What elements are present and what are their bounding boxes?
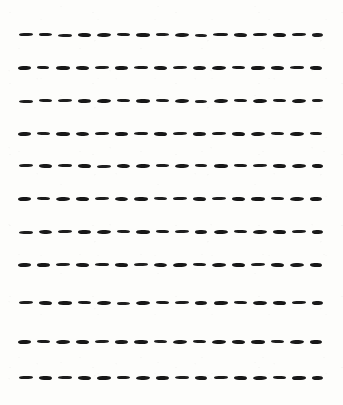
dash-mark (214, 376, 228, 380)
dash-mark (310, 197, 322, 201)
dash-mark (253, 230, 267, 234)
dash-mark (156, 99, 169, 103)
dash-mark (95, 340, 109, 344)
dash-mark (78, 99, 91, 103)
dash-mark (234, 230, 247, 234)
dash-mark (175, 301, 189, 305)
dash-mark (193, 263, 206, 267)
dash-mark (214, 164, 228, 168)
dash-mark (193, 132, 206, 136)
dash-mark (39, 33, 52, 37)
dash-mark (115, 197, 128, 201)
dash-mark (95, 263, 109, 267)
dash-mark (156, 301, 169, 305)
dash-mark (251, 66, 265, 70)
dash-row (0, 335, 343, 349)
dash-mark (136, 376, 150, 380)
dash-mark (117, 33, 130, 37)
dash-mark (95, 197, 109, 201)
dash-mark (78, 164, 91, 168)
dash-mark (195, 164, 207, 168)
dash-mark (19, 230, 33, 233)
dash-mark (234, 33, 247, 37)
dash-mark (173, 132, 187, 136)
dash-mark (195, 301, 207, 305)
dash-mark (310, 263, 322, 267)
dash-mark (58, 301, 72, 305)
dash-mark (156, 164, 169, 167)
dash-mark (58, 164, 72, 168)
dash-mark (232, 340, 245, 344)
dash-mark (134, 66, 148, 70)
dash-mark (37, 66, 49, 70)
dash-mark (97, 230, 111, 234)
dash-mark (136, 99, 150, 103)
dash-mark (312, 301, 323, 305)
dash-mark (156, 376, 169, 380)
dash-mark (58, 230, 72, 234)
dash-row (0, 296, 343, 310)
dash-mark (58, 33, 72, 36)
dash-mark (18, 340, 31, 344)
dash-mark (273, 376, 286, 380)
dash-mark (292, 376, 306, 380)
dash-row (0, 258, 343, 272)
dash-mark (76, 132, 89, 136)
dash-mark (19, 376, 33, 380)
dash-mark (76, 197, 89, 202)
dash-mark (212, 132, 226, 136)
dash-mark (273, 33, 286, 37)
dash-mark (117, 99, 130, 103)
dash-mark (271, 197, 284, 201)
dash-mark (56, 340, 70, 344)
dash-mark (19, 164, 33, 167)
dash-mark (76, 340, 89, 345)
dash-mark (175, 376, 189, 379)
dash-mark (19, 99, 33, 102)
dash-mark (212, 197, 226, 200)
dash-mark (115, 340, 128, 344)
dash-mark (134, 340, 148, 344)
dash-mark (97, 33, 111, 37)
dash-mark (251, 197, 265, 201)
dash-mark (56, 66, 70, 70)
dash-mark (290, 66, 304, 70)
dash-mark (39, 99, 52, 103)
dash-mark (58, 376, 72, 379)
dash-mark (271, 263, 284, 267)
dash-mark (273, 301, 286, 305)
dash-mark (253, 301, 267, 305)
dash-mark (154, 66, 167, 70)
dash-mark (173, 66, 187, 70)
dash-mark (312, 376, 323, 380)
dash-mark (175, 230, 189, 233)
dash-mark (37, 132, 50, 136)
dash-mark (154, 340, 167, 344)
dash-mark (234, 164, 247, 168)
dash-mark (154, 132, 167, 136)
dash-mark (234, 301, 247, 305)
dash-row (0, 127, 343, 141)
dash-mark (271, 340, 284, 344)
dash-mark (251, 340, 265, 344)
dash-mark (214, 230, 228, 234)
dash-mark (115, 132, 128, 136)
dash-mark (95, 132, 109, 136)
dash-mark (39, 301, 52, 305)
dash-mark (97, 164, 111, 167)
dash-mark (292, 230, 306, 234)
dash-mark (136, 33, 150, 37)
dash-mark (39, 230, 52, 234)
dash-mark (253, 376, 267, 380)
dash-mark (232, 66, 245, 70)
dash-mark (37, 263, 50, 267)
dash-mark (76, 66, 89, 70)
dash-row (0, 225, 343, 239)
dash-mark (58, 99, 72, 103)
dash-mark (195, 230, 207, 234)
dash-mark (115, 66, 128, 70)
dash-row (0, 159, 343, 173)
dash-mark (292, 301, 306, 305)
dash-mark (232, 197, 245, 201)
dash-mark (175, 99, 189, 103)
